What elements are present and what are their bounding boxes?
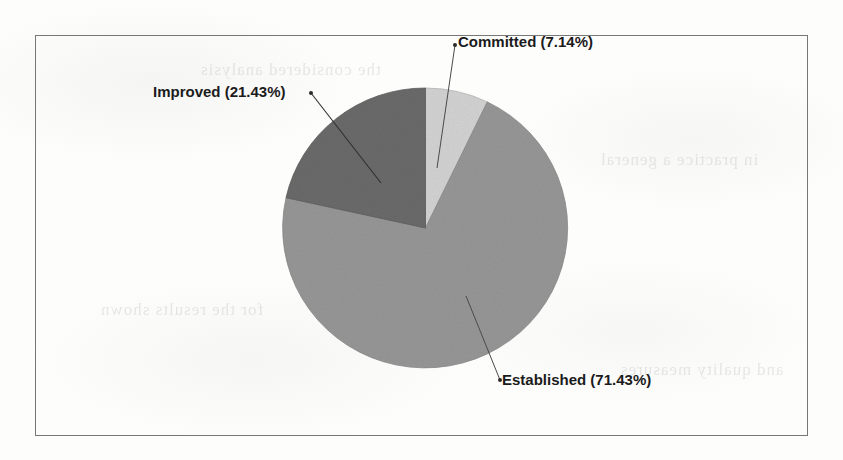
leader-dot-committed bbox=[453, 43, 457, 47]
pie-chart-plot-area bbox=[0, 0, 843, 460]
pie-slices-group bbox=[283, 88, 568, 368]
leader-dot-improved bbox=[309, 91, 313, 95]
pie-label-committed: Committed (7.14%) bbox=[458, 33, 593, 50]
pie-label-improved: Improved (21.43%) bbox=[153, 83, 286, 100]
pie-label-established: Established (71.43%) bbox=[502, 371, 651, 388]
screenshot-root: the considered analysis in practice a ge… bbox=[0, 0, 843, 460]
